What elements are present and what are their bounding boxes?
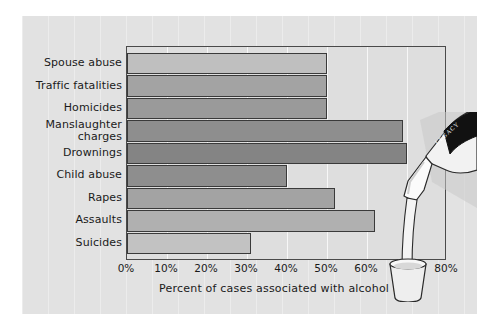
x-tick-label: 10% [154, 262, 177, 274]
category-label: Suicides [76, 237, 122, 249]
plot-area [126, 46, 446, 260]
bar-homicides [127, 98, 327, 119]
category-label: Traffic fatalities [36, 80, 122, 92]
chart-figure: Spouse abuseTraffic fatalitiesHomicidesM… [22, 16, 477, 314]
category-label: Assaults [75, 214, 122, 226]
category-label: Manslaughter charges [46, 119, 122, 143]
bar-manslaughter-charges [127, 120, 403, 141]
x-tick-label: 60% [354, 262, 377, 274]
x-tick-label: 50% [314, 262, 337, 274]
bar-traffic-fatalities [127, 75, 327, 96]
x-tick-label: 40% [274, 262, 297, 274]
x-axis-title: Percent of cases associated with alcohol… [126, 282, 446, 295]
x-tick-label: 80% [434, 262, 457, 274]
x-tick-label: 30% [234, 262, 257, 274]
x-tick-label: 70% [394, 262, 417, 274]
x-axis-tick-labels: 0%10%20%30%40%50%60%70%80% [126, 262, 486, 278]
category-label: Rapes [88, 192, 122, 204]
category-label: Child abuse [56, 169, 122, 181]
category-label: Homicides [64, 102, 122, 114]
bar-drownings [127, 143, 407, 164]
category-axis-labels: Spouse abuseTraffic fatalitiesHomicidesM… [22, 46, 122, 260]
category-label: Spouse abuse [44, 57, 122, 69]
x-tick-label: 20% [194, 262, 217, 274]
bar-child-abuse [127, 165, 287, 186]
gridline [407, 47, 408, 259]
category-label: Drownings [63, 147, 122, 159]
bar-suicides [127, 233, 251, 254]
bar-rapes [127, 188, 335, 209]
bar-spouse-abuse [127, 53, 327, 74]
x-tick-label: 0% [118, 262, 135, 274]
bar-assaults [127, 210, 375, 231]
